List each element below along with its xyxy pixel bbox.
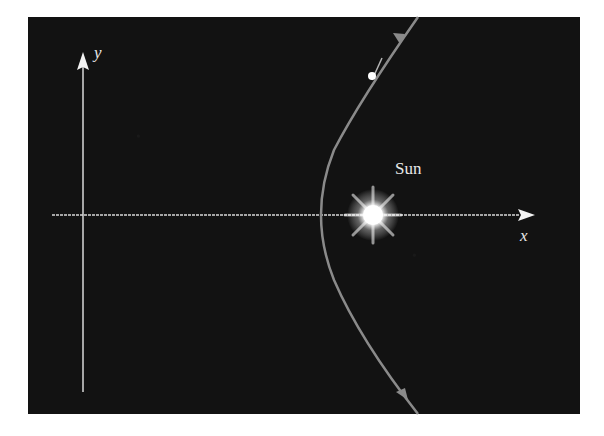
body-marker [368, 58, 382, 80]
sun-label: Sun [395, 159, 422, 178]
y-axis-label: y [92, 43, 102, 62]
orbit-arrow-bottom-icon [396, 388, 408, 400]
sun-icon [345, 187, 401, 243]
x-axis [52, 209, 535, 221]
x-axis-arrow-icon [518, 209, 535, 221]
y-axis [77, 52, 89, 392]
x-axis-label: x [519, 226, 528, 245]
hyperbola-diagram: Sun x y [0, 0, 604, 436]
